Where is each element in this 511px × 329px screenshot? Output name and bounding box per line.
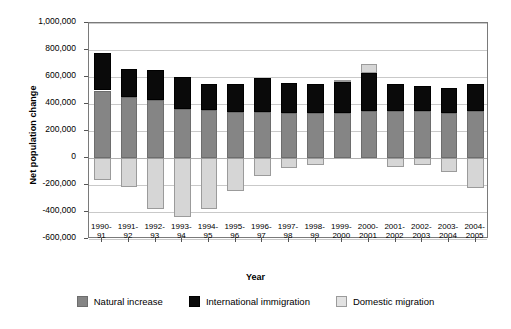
bar-segment-domestic-migration[interactable] <box>387 158 404 167</box>
bar-group[interactable] <box>334 23 351 237</box>
bar-group[interactable] <box>387 23 404 237</box>
bar-segment-international-immigration[interactable] <box>201 84 218 110</box>
bar-segment-domestic-migration[interactable] <box>254 158 271 176</box>
bar-segment-international-immigration[interactable] <box>281 83 298 113</box>
legend-swatch-intl <box>189 296 200 307</box>
bar-segment-international-immigration[interactable] <box>361 73 378 111</box>
bar-group[interactable] <box>254 23 271 237</box>
bar-segment-natural-increase[interactable] <box>334 113 351 158</box>
y-axis-tick-label: 200,000 <box>8 125 76 133</box>
bar-segment-natural-increase[interactable] <box>441 113 458 158</box>
bar-segment-natural-increase[interactable] <box>467 111 484 158</box>
bar-segment-domestic-migration[interactable] <box>94 158 111 180</box>
bar-group[interactable] <box>307 23 324 237</box>
legend-swatch-natural <box>77 296 88 307</box>
legend-item[interactable]: International immigration <box>189 296 310 307</box>
bar-segment-domestic-migration[interactable] <box>121 158 138 187</box>
bar-segment-domestic-migration[interactable] <box>441 158 458 172</box>
bar-segment-domestic-migration[interactable] <box>227 158 244 191</box>
bar-segment-natural-increase[interactable] <box>281 113 298 158</box>
bar-group[interactable] <box>147 23 164 237</box>
bar-segment-natural-increase[interactable] <box>227 112 244 158</box>
bar-segment-international-immigration[interactable] <box>334 82 351 113</box>
bar-segment-natural-increase[interactable] <box>307 113 324 158</box>
y-axis-tick-label: 600,000 <box>8 71 76 79</box>
bar-segment-domestic-migration[interactable] <box>281 158 298 168</box>
bar-segment-international-immigration[interactable] <box>174 77 191 109</box>
bar-segment-international-immigration[interactable] <box>387 84 404 111</box>
bar-segment-natural-increase[interactable] <box>254 112 271 158</box>
legend-label: Natural increase <box>94 296 163 307</box>
bar-segment-international-immigration[interactable] <box>147 70 164 100</box>
bar-group[interactable] <box>441 23 458 237</box>
plot-area <box>88 22 488 238</box>
y-axis-tick-label: 800,000 <box>8 44 76 52</box>
bar-segment-domestic-migration[interactable] <box>467 158 484 188</box>
y-axis-tick-label: 0 <box>8 152 76 160</box>
legend-item[interactable]: Natural increase <box>77 296 163 307</box>
bar-segment-domestic-migration[interactable] <box>201 158 218 209</box>
bar-segment-domestic-migration[interactable] <box>361 64 378 73</box>
bar-segment-natural-increase[interactable] <box>121 97 138 158</box>
x-axis-title: Year <box>0 272 511 282</box>
y-axis-tick-label: 400,000 <box>8 98 76 106</box>
bar-segment-international-immigration[interactable] <box>227 84 244 112</box>
bar-series-group <box>89 23 487 237</box>
bar-segment-international-immigration[interactable] <box>441 88 458 113</box>
bar-segment-international-immigration[interactable] <box>94 53 111 91</box>
bar-segment-international-immigration[interactable] <box>254 78 271 112</box>
bar-segment-international-immigration[interactable] <box>121 69 138 97</box>
bar-segment-domestic-migration[interactable] <box>147 158 164 209</box>
bar-group[interactable] <box>414 23 431 237</box>
bar-segment-domestic-migration[interactable] <box>414 158 431 165</box>
bar-segment-natural-increase[interactable] <box>414 111 431 158</box>
y-axis-title: Net population change <box>28 55 38 215</box>
y-axis-tick-label: -400,000 <box>8 206 76 214</box>
bar-group[interactable] <box>361 23 378 237</box>
bar-segment-domestic-migration[interactable] <box>174 158 191 217</box>
bar-segment-natural-increase[interactable] <box>147 100 164 158</box>
bar-segment-natural-increase[interactable] <box>174 109 191 158</box>
bar-segment-natural-increase[interactable] <box>201 110 218 158</box>
x-axis-tick-label: 2004-2005 <box>455 222 495 240</box>
x-axis-tick-label-line: 2005 <box>455 231 495 240</box>
bar-segment-natural-increase[interactable] <box>94 91 111 159</box>
y-axis-tick-label: -600,000 <box>8 233 76 241</box>
legend-label: International immigration <box>206 296 310 307</box>
bar-group[interactable] <box>121 23 138 237</box>
bar-group[interactable] <box>174 23 191 237</box>
bar-segment-domestic-migration[interactable] <box>307 158 324 165</box>
bar-group[interactable] <box>467 23 484 237</box>
net-population-change-chart: Net population change 1,000,000800,00060… <box>0 0 511 329</box>
y-axis-tick-label: -200,000 <box>8 179 76 187</box>
bar-segment-international-immigration[interactable] <box>414 86 431 112</box>
legend-label: Domestic migration <box>353 296 434 307</box>
legend-item[interactable]: Domestic migration <box>336 296 434 307</box>
chart-legend: Natural increaseInternational immigratio… <box>0 296 511 307</box>
bar-segment-international-immigration[interactable] <box>467 84 484 111</box>
bar-group[interactable] <box>227 23 244 237</box>
bar-group[interactable] <box>94 23 111 237</box>
bar-segment-domestic-migration[interactable] <box>334 80 351 82</box>
bar-segment-natural-increase[interactable] <box>361 111 378 158</box>
bar-group[interactable] <box>201 23 218 237</box>
bar-segment-international-immigration[interactable] <box>307 84 324 113</box>
x-axis-tick-label-line: 2004- <box>455 222 495 231</box>
bar-segment-natural-increase[interactable] <box>387 111 404 158</box>
y-axis-tick-label: 1,000,000 <box>8 17 76 25</box>
bar-group[interactable] <box>281 23 298 237</box>
legend-swatch-dom <box>336 296 347 307</box>
